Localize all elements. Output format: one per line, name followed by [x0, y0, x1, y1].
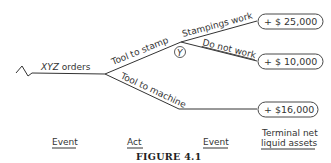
header-event-1: Event [52, 137, 78, 147]
root-event-line [32, 73, 105, 74]
terminal-value-25000: + $ 25,000 [264, 16, 317, 27]
header-event-2: Event [203, 137, 229, 147]
header-terminal-line1: Terminal net [261, 128, 318, 138]
zigzag-start-icon [16, 66, 32, 76]
terminal-value-16000: + $16,000 [264, 104, 314, 115]
act-machine-label: Tool to machine [118, 70, 188, 110]
act-stamp-label: Tool to stamp [109, 35, 170, 67]
figure-caption: FIGURE 4.1 [136, 151, 202, 162]
header-terminal-line2: liquid assets [261, 138, 317, 148]
event-node-symbol: Y [177, 48, 184, 58]
root-event-label: XYZ orders [40, 62, 91, 72]
outcome-not-work-label: Do not work [202, 37, 258, 60]
decision-tree-diagram: XYZ orders Tool to stamp Tool to machine… [0, 0, 331, 163]
terminal-value-10000: + $ 10,000 [264, 56, 317, 67]
header-act: Act [127, 137, 142, 147]
